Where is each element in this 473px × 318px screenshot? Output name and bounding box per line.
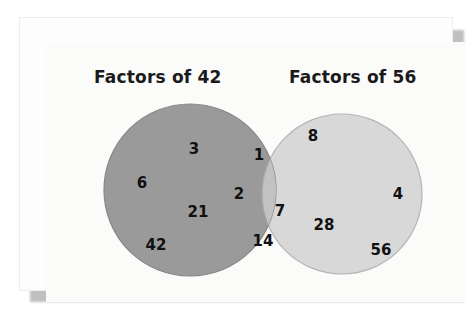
set-element-intersection-7: 7 [275, 202, 285, 220]
set-element-left-only-21: 21 [188, 203, 209, 221]
set-element-intersection-1: 1 [254, 146, 264, 164]
set-element-right-only-8: 8 [308, 127, 318, 145]
set-element-intersection-14: 14 [253, 232, 274, 250]
left-set-circle [104, 104, 276, 276]
set-element-right-only-28: 28 [314, 216, 335, 234]
set-element-left-only-42: 42 [146, 236, 167, 254]
picture-frame: Factors of 42 Factors of 56 362142127148… [19, 17, 453, 291]
right-set-title: Factors of 56 [289, 67, 417, 87]
set-element-right-only-4: 4 [393, 185, 403, 203]
set-element-left-only-6: 6 [137, 174, 147, 192]
set-element-intersection-2: 2 [234, 185, 244, 203]
set-element-left-only-3: 3 [189, 140, 199, 158]
set-element-right-only-56: 56 [371, 241, 392, 259]
left-set-title: Factors of 42 [94, 67, 222, 87]
venn-diagram-canvas: Factors of 42 Factors of 56 362142127148… [46, 42, 466, 302]
screenshot-root: Factors of 42 Factors of 56 362142127148… [0, 0, 473, 318]
